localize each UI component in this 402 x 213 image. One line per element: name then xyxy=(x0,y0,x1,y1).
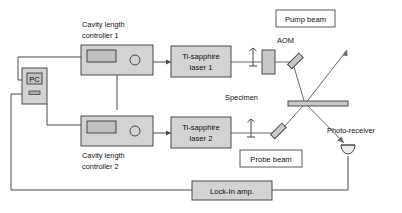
laser1-block[interactable]: Ti-sapphire laser 1 xyxy=(171,46,231,77)
controller1-block[interactable] xyxy=(81,45,153,75)
beam-pump-reflected xyxy=(305,50,347,104)
photo-receiver-label: Photo-receiver xyxy=(327,126,376,135)
beam-pump-to-specimen xyxy=(294,67,305,104)
lockin-label: Lock-In amp. xyxy=(210,187,254,196)
mirror1-icon xyxy=(288,53,304,69)
laser2-label-line2: laser 2 xyxy=(190,134,213,143)
photodetector-icon xyxy=(341,145,355,154)
controller1-label-line2: controller 1 xyxy=(82,31,119,40)
pump-beam-block: Pump beam xyxy=(276,10,335,27)
figure-root: PC Cavity length controller 1 Cavity len… xyxy=(0,0,402,213)
arrowhead-pump-reflected xyxy=(342,50,347,56)
specimen-block xyxy=(288,101,348,106)
laser2-block[interactable]: Ti-sapphire laser 2 xyxy=(171,117,231,148)
controller1-knob-icon[interactable] xyxy=(130,55,140,65)
probe-beam-block: Probe beam xyxy=(240,150,302,167)
pc-label: PC xyxy=(29,75,40,84)
pump-beam-label: Pump beam xyxy=(285,15,326,24)
aom-block[interactable] xyxy=(262,50,275,74)
specimen-label: Specimen xyxy=(225,93,258,102)
beam-probe-to-detector xyxy=(306,104,344,143)
laser1-label-line1: Ti-sapphire xyxy=(182,52,220,61)
controller1-display-panel-icon xyxy=(87,50,116,62)
photo-receiver-block[interactable] xyxy=(341,145,355,154)
aom-label: AOM xyxy=(277,36,294,45)
specimen-bar-icon xyxy=(288,101,348,106)
lens2-icon xyxy=(247,119,255,137)
probe-beam-label: Probe beam xyxy=(250,155,291,164)
controller2-block[interactable] xyxy=(81,116,153,146)
wire-pc-to-controller2 xyxy=(47,104,81,125)
lockin-block[interactable]: Lock-In amp. xyxy=(192,181,272,200)
laser1-body xyxy=(171,46,231,77)
controller2-display-panel-icon xyxy=(87,121,116,133)
beam-probe-to-specimen xyxy=(283,106,303,128)
pc-block[interactable]: PC xyxy=(22,68,47,104)
controller2-knob-icon[interactable] xyxy=(130,126,140,136)
lens1-icon xyxy=(249,48,257,66)
arrowhead-controller1-laser1 xyxy=(166,59,171,64)
system-diagram: PC Cavity length controller 1 Cavity len… xyxy=(0,0,402,213)
controller1-label-line1: Cavity length xyxy=(82,20,125,29)
controller2-label-line2: controller 2 xyxy=(82,162,119,171)
controller2-label-line1: Cavity length xyxy=(82,151,125,160)
pc-slot-icon xyxy=(29,91,40,95)
laser1-label-line2: laser 1 xyxy=(190,63,213,72)
laser2-label-line1: Ti-sapphire xyxy=(182,123,220,132)
aom-crystal-icon xyxy=(262,50,275,74)
mirror2-icon xyxy=(271,123,287,139)
arrowhead-controller2-laser2 xyxy=(166,130,171,135)
laser2-body xyxy=(171,117,231,148)
